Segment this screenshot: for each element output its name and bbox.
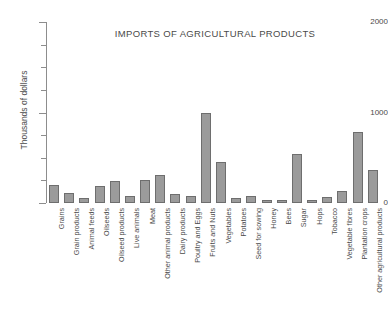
bar-item[interactable] — [305, 22, 320, 203]
bar-item[interactable] — [335, 22, 350, 203]
x-axis-label-slot: Grain products — [62, 205, 77, 323]
bar-item[interactable] — [199, 22, 214, 203]
bar[interactable] — [231, 198, 241, 203]
x-axis-label-slot: Plantation crops — [351, 205, 366, 323]
bar[interactable] — [246, 196, 256, 203]
bar-item[interactable] — [260, 22, 275, 203]
bar[interactable] — [292, 154, 302, 203]
bar[interactable] — [95, 186, 105, 203]
bar-item[interactable] — [320, 22, 335, 203]
y-axis-major-tick — [39, 203, 46, 204]
x-axis-tick-labels: GrainsGrain productsAnimal feedsOilseeds… — [47, 205, 381, 325]
bar[interactable] — [368, 170, 378, 203]
y-axis-minor-tick — [41, 90, 46, 91]
x-axis-label-slot: Hops — [305, 205, 320, 323]
bar[interactable] — [353, 132, 363, 203]
y-axis-minor-tick — [41, 45, 46, 46]
bar-item[interactable] — [123, 22, 138, 203]
y-axis-major-tick — [39, 22, 46, 23]
x-axis-label-slot: Honey — [260, 205, 275, 323]
bar-item[interactable] — [290, 22, 305, 203]
bar-item[interactable] — [77, 22, 92, 203]
bar[interactable] — [140, 180, 150, 203]
y-axis-minor-tick — [41, 135, 46, 136]
bar[interactable] — [64, 193, 74, 203]
x-axis-label-slot: Animal feeds — [77, 205, 92, 323]
bar-item[interactable] — [184, 22, 199, 203]
x-axis-label-slot: Sugar — [290, 205, 305, 323]
bar[interactable] — [277, 200, 287, 203]
x-axis-label-slot: Seed for sowing — [244, 205, 259, 323]
bar-item[interactable] — [229, 22, 244, 203]
x-axis-label-slot: Poultry and Eggs — [184, 205, 199, 323]
y-axis-minor-tick — [41, 67, 46, 68]
bar[interactable] — [201, 113, 211, 204]
bar-item[interactable] — [168, 22, 183, 203]
bar-series — [47, 22, 381, 203]
bar[interactable] — [216, 162, 226, 203]
x-axis-label-slot: Bees — [275, 205, 290, 323]
bar-item[interactable] — [244, 22, 259, 203]
y-axis-minor-tick — [41, 180, 46, 181]
bar-item[interactable] — [108, 22, 123, 203]
bar-item[interactable] — [214, 22, 229, 203]
x-axis-label-slot: Grains — [47, 205, 62, 323]
bar-item[interactable] — [47, 22, 62, 203]
x-axis-label-slot: Other agricultural products — [366, 205, 381, 323]
x-axis-label-slot: Oilseed products — [108, 205, 123, 323]
bar-item[interactable] — [62, 22, 77, 203]
x-axis-label-slot: Tobacco — [320, 205, 335, 323]
bar-item[interactable] — [351, 22, 366, 203]
x-axis-tick-label: Other agricultural products — [376, 208, 384, 293]
x-axis-label-slot: Meat — [138, 205, 153, 323]
x-axis-label-slot: Live animals — [123, 205, 138, 323]
y-axis-major-tick — [39, 113, 46, 114]
x-axis-label-slot: Dairy products — [168, 205, 183, 323]
bar[interactable] — [125, 196, 135, 203]
bar[interactable] — [307, 200, 317, 203]
bar-item[interactable] — [275, 22, 290, 203]
bar[interactable] — [186, 196, 196, 203]
bar[interactable] — [49, 185, 59, 203]
x-axis-label-slot: Oilseeds — [93, 205, 108, 323]
bar[interactable] — [155, 175, 165, 203]
bar[interactable] — [110, 181, 120, 203]
x-axis-label-slot: Other animal products — [153, 205, 168, 323]
bar[interactable] — [337, 191, 347, 203]
bar-item[interactable] — [366, 22, 381, 203]
x-axis-label-slot: Fruits and Nuts — [199, 205, 214, 323]
bar-item[interactable] — [93, 22, 108, 203]
bar[interactable] — [79, 198, 89, 203]
y-axis-minor-tick — [41, 158, 46, 159]
bar[interactable] — [262, 200, 272, 203]
y-axis-label: Thousands of dollars — [19, 45, 29, 175]
x-axis-label-slot: Potatoes — [229, 205, 244, 323]
bar-item[interactable] — [138, 22, 153, 203]
bar[interactable] — [170, 194, 180, 203]
bar[interactable] — [322, 197, 332, 203]
x-axis-label-slot: Vegetable fibres — [335, 205, 350, 323]
bar-item[interactable] — [153, 22, 168, 203]
x-axis-label-slot: Vegetables — [214, 205, 229, 323]
bar-chart: IMPORTS OF AGRICULTURAL PRODUCTS Thousan… — [0, 0, 388, 326]
